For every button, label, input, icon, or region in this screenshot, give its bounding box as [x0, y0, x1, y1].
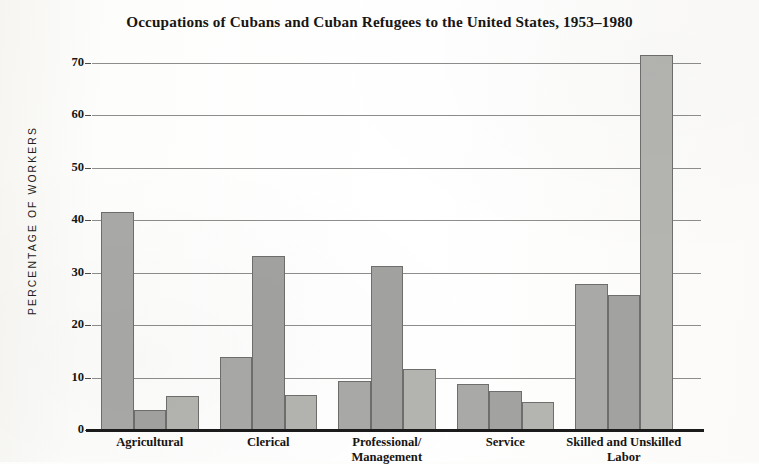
bar	[166, 396, 199, 430]
y-axis-tick	[85, 168, 91, 169]
bar	[285, 395, 318, 430]
gridline	[92, 115, 701, 116]
bar	[371, 266, 404, 430]
bar	[338, 381, 371, 430]
bar	[252, 256, 285, 430]
bar	[403, 369, 436, 430]
plot-area	[92, 63, 684, 430]
bar	[134, 410, 167, 430]
gridline	[92, 63, 701, 64]
y-axis-tick-label: 20	[58, 317, 84, 332]
y-axis-tick-label: 10	[58, 370, 84, 385]
y-axis-tick	[85, 63, 91, 64]
y-axis-tick-label: 30	[58, 265, 84, 280]
x-axis-category-label: Skilled and UnskilledLabor	[534, 435, 714, 464]
y-axis-tick	[85, 378, 91, 379]
bar	[608, 295, 641, 430]
y-axis-tick	[85, 273, 91, 274]
bar	[220, 357, 253, 430]
bar	[522, 402, 555, 430]
gridline	[92, 220, 701, 221]
y-axis-title: PERCENTAGE OF WORKERS	[27, 111, 38, 331]
bar	[640, 55, 673, 430]
bar	[101, 212, 134, 430]
page-title: Occupations of Cubans and Cuban Refugees…	[0, 13, 759, 31]
y-axis-tick	[85, 115, 91, 116]
y-axis-tick	[85, 325, 91, 326]
y-axis-tick-label: 40	[58, 212, 84, 227]
bar	[457, 384, 490, 430]
y-axis-tick-label: 50	[58, 160, 84, 175]
y-axis-tick-label: 70	[58, 55, 84, 70]
gridline	[92, 168, 701, 169]
y-axis-tick-label: 60	[58, 107, 84, 122]
x-axis-line	[86, 429, 704, 432]
y-axis-tick	[85, 220, 91, 221]
y-axis-tick-labels: 706050403020100	[48, 0, 84, 462]
bar	[489, 391, 522, 430]
bar	[575, 284, 608, 430]
